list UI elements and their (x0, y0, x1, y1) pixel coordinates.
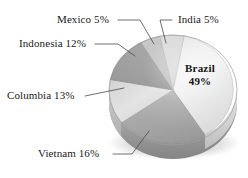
slice-label-india: India 5% (178, 13, 219, 25)
slice-label-brazil-value: 49% (176, 75, 224, 88)
slice-label-brazil-name: Brazil (176, 62, 224, 75)
slice-label-brazil: Brazil 49% (176, 62, 224, 88)
pie-chart-figure: Mexico 5% India 5% Indonesia 12% Columbi… (0, 0, 248, 178)
slice-label-mexico: Mexico 5% (57, 13, 109, 25)
slice-label-indonesia: Indonesia 12% (19, 37, 86, 49)
slice-label-columbia: Columbia 13% (7, 89, 75, 101)
slice-label-vietnam: Vietnam 16% (38, 147, 99, 159)
